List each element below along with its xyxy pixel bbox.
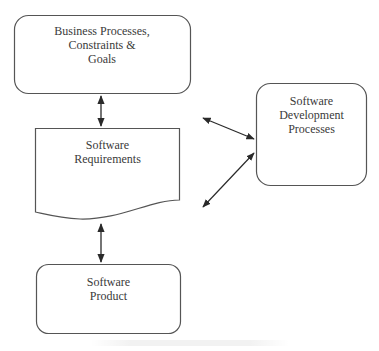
- software-requirements-label: Software Requirements: [35, 138, 180, 166]
- software-development-processes-label: Software Development Processes: [256, 94, 367, 136]
- label-line: Product: [36, 289, 181, 303]
- label-line: Processes: [256, 122, 367, 136]
- arrow-devprocesses-upper: [203, 118, 254, 139]
- faint-caption-remnant: [90, 340, 290, 346]
- label-line: Constraints &: [14, 38, 190, 52]
- label-line: Business Processes,: [14, 24, 190, 38]
- label-line: Software: [35, 138, 180, 152]
- label-line: Software: [256, 94, 367, 108]
- label-line: Development: [256, 108, 367, 122]
- label-line: Requirements: [35, 152, 180, 166]
- label-line: Goals: [14, 52, 190, 66]
- label-line: Software: [36, 275, 181, 289]
- business-processes-label: Business Processes, Constraints & Goals: [14, 24, 190, 66]
- software-product-label: Software Product: [36, 275, 181, 303]
- arrow-devprocesses-lower: [203, 153, 254, 207]
